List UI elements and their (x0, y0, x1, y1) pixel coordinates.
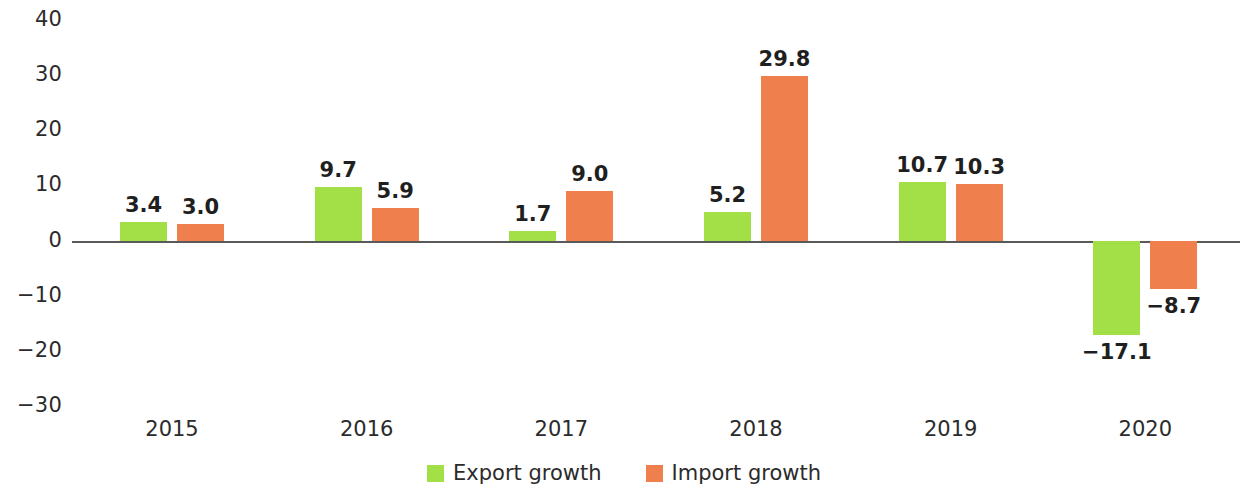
bar-group: −17.1−8.7 (1093, 20, 1197, 406)
bar-rect (372, 208, 419, 241)
x-axis: 201520162017201820192020 (72, 418, 1240, 448)
plot-area: 3.43.09.75.91.79.05.229.810.710.3−17.1−8… (72, 20, 1240, 406)
bar-rect (761, 76, 808, 240)
x-axis-tick-label: 2020 (1065, 418, 1225, 440)
x-axis-tick-label: 2019 (871, 418, 1031, 440)
bar-value-label: 3.0 (159, 196, 242, 218)
bar-value-label: 5.9 (354, 180, 437, 202)
legend-label: Import growth (672, 462, 821, 484)
bar-chart: 403020100−10−20−30 3.43.09.75.91.79.05.2… (0, 0, 1248, 494)
y-axis-tick-label: 30 (6, 64, 62, 85)
bar-value-label: 5.2 (686, 184, 769, 206)
bar-group: 1.79.0 (509, 20, 613, 406)
legend-swatch-icon (427, 465, 444, 482)
bar-value-label: 9.0 (548, 163, 631, 185)
bar-value-label: 9.7 (297, 159, 380, 181)
bar-rect (177, 224, 224, 241)
legend-item[interactable]: Import growth (646, 462, 821, 484)
zero-baseline (72, 241, 1240, 243)
legend-swatch-icon (646, 465, 663, 482)
legend-item[interactable]: Export growth (427, 462, 602, 484)
y-axis: 403020100−10−20−30 (0, 20, 62, 406)
bar-group: 9.75.9 (315, 20, 419, 406)
y-axis-tick-label: 10 (6, 174, 62, 195)
bar-group: 5.229.8 (704, 20, 808, 406)
bar-value-label: 1.7 (491, 203, 574, 225)
bar-rect (1093, 241, 1140, 335)
y-axis-tick-label: −10 (6, 285, 62, 306)
chart-legend: Export growthImport growth (0, 462, 1248, 484)
y-axis-tick-label: 0 (6, 230, 62, 251)
y-axis-tick-label: −20 (6, 340, 62, 361)
y-axis-tick-label: 40 (6, 9, 62, 30)
bar-value-label: −17.1 (1075, 341, 1158, 363)
legend-label: Export growth (453, 462, 602, 484)
bar-group: 10.710.3 (899, 20, 1003, 406)
x-axis-tick-label: 2018 (676, 418, 836, 440)
bar-value-label: −8.7 (1132, 295, 1215, 317)
bar-rect (704, 212, 751, 241)
bar-value-label: 10.3 (938, 156, 1021, 178)
bar-rect (956, 184, 1003, 241)
x-axis-tick-label: 2016 (287, 418, 447, 440)
bar-group: 3.43.0 (120, 20, 224, 406)
x-axis-tick-label: 2017 (481, 418, 641, 440)
y-axis-tick-label: 20 (6, 119, 62, 140)
bar-rect (120, 222, 167, 241)
y-axis-tick-label: −30 (6, 395, 62, 416)
bar-rect (566, 191, 613, 241)
bar-rect (899, 182, 946, 241)
bar-rect (509, 231, 556, 240)
x-axis-tick-label: 2015 (92, 418, 252, 440)
bar-rect (1150, 241, 1197, 289)
bar-value-label: 29.8 (743, 48, 826, 70)
